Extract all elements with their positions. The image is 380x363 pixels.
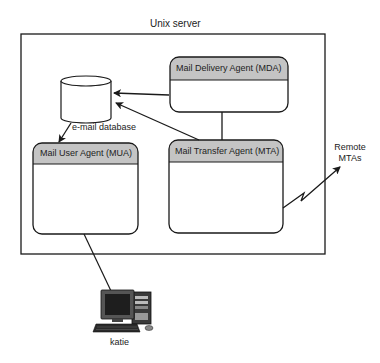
computer-icon bbox=[93, 290, 153, 332]
remote-line1: Remote bbox=[330, 142, 370, 153]
remote-line2: MTAs bbox=[330, 153, 370, 164]
database-label: e-mail database bbox=[72, 122, 136, 132]
database-cylinder-icon bbox=[61, 76, 111, 123]
mda-to-db-arrow bbox=[114, 93, 169, 95]
remote-link-lightning bbox=[283, 167, 340, 208]
db-to-mua-arrow bbox=[59, 123, 71, 142]
server-label: Unix server bbox=[150, 18, 201, 29]
mua-to-client-line bbox=[84, 234, 111, 291]
remote-mtas-label: Remote MTAs bbox=[330, 142, 370, 164]
mua-label: Mail User Agent (MUA) bbox=[40, 148, 132, 158]
client-label: katie bbox=[110, 337, 129, 347]
diagram-canvas bbox=[0, 0, 380, 363]
mda-label: Mail Delivery Agent (MDA) bbox=[176, 63, 282, 73]
mta-label: Mail Transfer Agent (MTA) bbox=[175, 146, 279, 156]
